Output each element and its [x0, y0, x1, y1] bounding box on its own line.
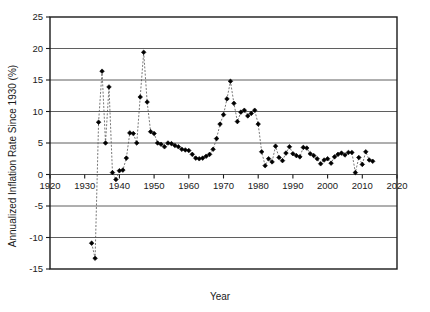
y-axis-label: Annualized Inflation Rate Since 1930 (%): [7, 65, 18, 247]
y-tick-label: -10: [29, 232, 43, 243]
x-tick-label: 1960: [178, 180, 199, 191]
x-tick-label: 1980: [248, 180, 269, 191]
x-tick-label: 1940: [109, 180, 130, 191]
chart-figure: -15-10-50510152025 192019301940195019601…: [0, 0, 430, 312]
x-tick-label: 1950: [144, 180, 165, 191]
inflation-rate-scatter-chart: -15-10-50510152025 192019301940195019601…: [0, 0, 430, 312]
x-tick-label: 2010: [352, 180, 373, 191]
x-axis-label: Year: [210, 291, 231, 302]
y-tick-label: 20: [32, 43, 43, 54]
x-tick-label: 2020: [386, 180, 407, 191]
y-tick-label: 25: [32, 11, 43, 22]
x-tick-label: 1920: [39, 180, 60, 191]
y-tick-label: 0: [38, 169, 43, 180]
figure-background: [0, 0, 430, 312]
x-tick-label: 2000: [317, 180, 338, 191]
x-tick-label: 1990: [282, 180, 303, 191]
y-tick-label: -5: [35, 200, 43, 211]
y-tick-label: 5: [38, 137, 43, 148]
y-tick-label: 15: [32, 74, 43, 85]
y-tick-label: -15: [29, 263, 43, 274]
x-tick-label: 1930: [74, 180, 95, 191]
y-tick-label: 10: [32, 106, 43, 117]
x-tick-label: 1970: [213, 180, 234, 191]
